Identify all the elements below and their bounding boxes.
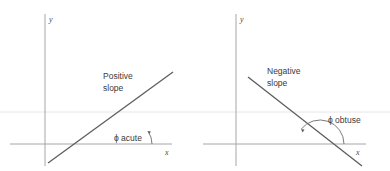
angle-label-obtuse: ϕ obtuse xyxy=(328,115,361,125)
y-axis-label-negative: y xyxy=(239,15,244,24)
panel-negative-slope: y x Negative slope ϕ obtuse xyxy=(203,14,366,166)
slope-label-positive-line2: slope xyxy=(103,83,124,93)
angle-arc-arrowhead-obtuse xyxy=(301,129,304,132)
slope-angle-diagram: y x Positive slope ϕ acute y x Negative … xyxy=(0,0,390,171)
slope-label-negative-line2: slope xyxy=(267,78,288,88)
y-axis-label-positive: y xyxy=(48,15,53,24)
slope-label-negative-line1: Negative xyxy=(267,66,301,76)
angle-label-acute: ϕ acute xyxy=(114,133,142,143)
slope-label-positive-line1: Positive xyxy=(103,71,133,81)
x-axis-label-negative: x xyxy=(355,148,360,157)
panel-positive-slope: y x Positive slope ϕ acute xyxy=(10,14,173,166)
x-axis-label-positive: x xyxy=(164,148,169,157)
angle-arc-acute xyxy=(148,131,152,144)
